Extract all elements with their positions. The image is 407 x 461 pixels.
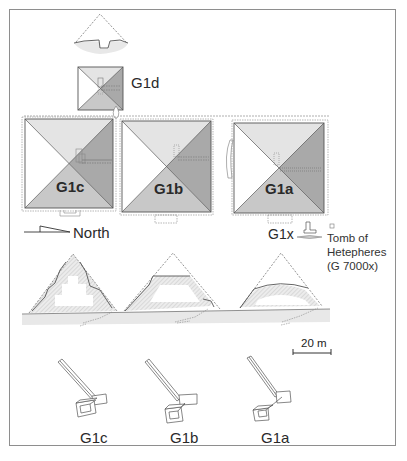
label-g1c-plan: G1c xyxy=(56,179,84,194)
scale-bar-icon xyxy=(293,349,331,355)
north-arrow-icon xyxy=(24,226,70,232)
tomb-hetepheres-marker xyxy=(330,224,334,228)
label-g1a-axo: G1a xyxy=(261,430,289,445)
label-g1d: G1d xyxy=(131,75,159,90)
g1d-section xyxy=(74,14,128,54)
label-north: North xyxy=(73,225,110,240)
g1c-axonometric xyxy=(58,359,107,417)
label-g1b-plan: G1b xyxy=(154,181,183,196)
cross-sections xyxy=(22,253,330,326)
g1c-plan xyxy=(22,117,116,216)
label-g1c-axo: G1c xyxy=(80,430,108,445)
g1b-plan xyxy=(120,119,213,223)
g1a-plan xyxy=(232,120,328,223)
g1d-plan xyxy=(78,67,123,110)
tomb-note: Tomb of Hetepheres (G 7000x) xyxy=(327,232,386,273)
label-g1a-plan: G1a xyxy=(265,181,293,196)
figure-canvas: G1d G1c G1b G1a North G1x Tomb of Heteph… xyxy=(0,0,407,461)
tomb-note-line: (G 7000x) xyxy=(327,260,386,274)
scale-bar-label: 20 m xyxy=(301,338,327,350)
tomb-note-line: Tomb of xyxy=(327,232,386,246)
label-g1x: G1x xyxy=(268,227,294,241)
diagram-drawing xyxy=(0,0,407,461)
g1b-axonometric xyxy=(145,359,197,423)
tomb-note-line: Hetepheres xyxy=(327,246,386,260)
label-g1b-axo: G1b xyxy=(170,430,198,445)
g1a-axonometric xyxy=(247,356,291,421)
